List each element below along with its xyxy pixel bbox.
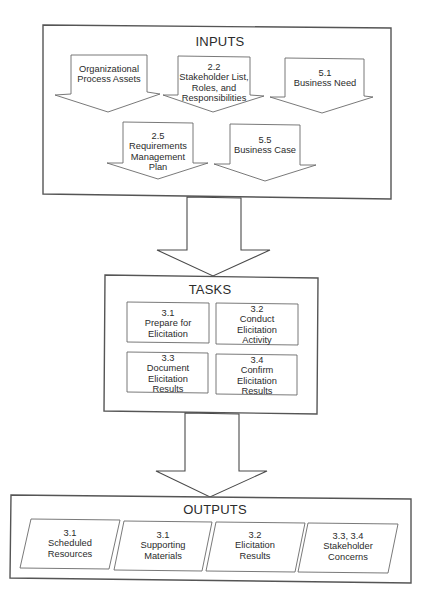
flow-arrow-inputs-to-tasks: [157, 197, 270, 276]
task-label-prepare-for-elicitation: 3.1 Prepare for Elicitation: [127, 308, 209, 339]
tasks-title: TASKS: [160, 282, 260, 297]
input-label-stakeholder-list: 2.2 Stakeholder List, Roles, and Respons…: [166, 62, 262, 104]
input-label-business-need: 5.1 Business Need: [280, 68, 370, 89]
outputs-title: OUTPUTS: [165, 502, 265, 517]
task-label-conduct-elicitation-activity: 3.2 Conduct Elicitation Activity: [216, 304, 298, 346]
flow-arrow-tasks-to-outputs: [156, 413, 267, 497]
inputs-title: INPUTS: [170, 34, 270, 49]
inputs-frame: [43, 25, 391, 199]
input-label-requirements-management-plan: 2.5 Requirements Management Plan: [116, 131, 200, 173]
output-label-stakeholder-concerns: 3.3, 3.4 Stakeholder Concerns: [303, 531, 393, 562]
input-label-business-case: 5.5 Business Case: [222, 135, 308, 156]
task-label-document-elicitation-results: 3.3 Document Elicitation Results: [127, 353, 209, 395]
task-label-confirm-elicitation-results: 3.4 Confirm Elicitation Results: [216, 355, 298, 397]
input-label-organizational-process-assets: Organizational Process Assets: [66, 64, 152, 85]
output-label-elicitation-results: 3.2 Elicitation Results: [210, 530, 300, 561]
output-label-supporting-materials: 3.1 Supporting Materials: [118, 530, 208, 561]
output-label-scheduled-resources: 3.1 Scheduled Resources: [25, 528, 115, 559]
